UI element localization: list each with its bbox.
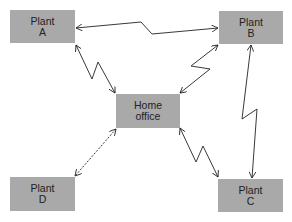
link-plant-a-home-office: [76, 45, 115, 93]
node-home-office: Home office: [116, 94, 180, 128]
node-label: C: [247, 196, 255, 207]
node-label: A: [39, 27, 46, 38]
node-label: B: [247, 28, 254, 39]
node-label: Plant: [31, 16, 55, 27]
link-plant-b-home-office: [180, 45, 218, 93]
node-plant-d: Plant D: [10, 177, 75, 211]
link-home-office-plant-d: [75, 129, 116, 176]
network-diagram: Plant A Plant B Home office Plant D Plan…: [0, 0, 292, 222]
node-plant-a: Plant A: [10, 10, 75, 43]
link-home-office-plant-c: [180, 128, 218, 177]
node-plant-c: Plant C: [218, 179, 283, 212]
link-plant-a-plant-b: [76, 22, 218, 34]
node-label: office: [136, 111, 161, 122]
node-label: D: [39, 194, 47, 205]
node-plant-b: Plant B: [219, 11, 283, 44]
link-plant-b-plant-c: [242, 45, 257, 178]
node-label: Plant: [239, 185, 263, 196]
node-label: Plant: [239, 17, 263, 28]
